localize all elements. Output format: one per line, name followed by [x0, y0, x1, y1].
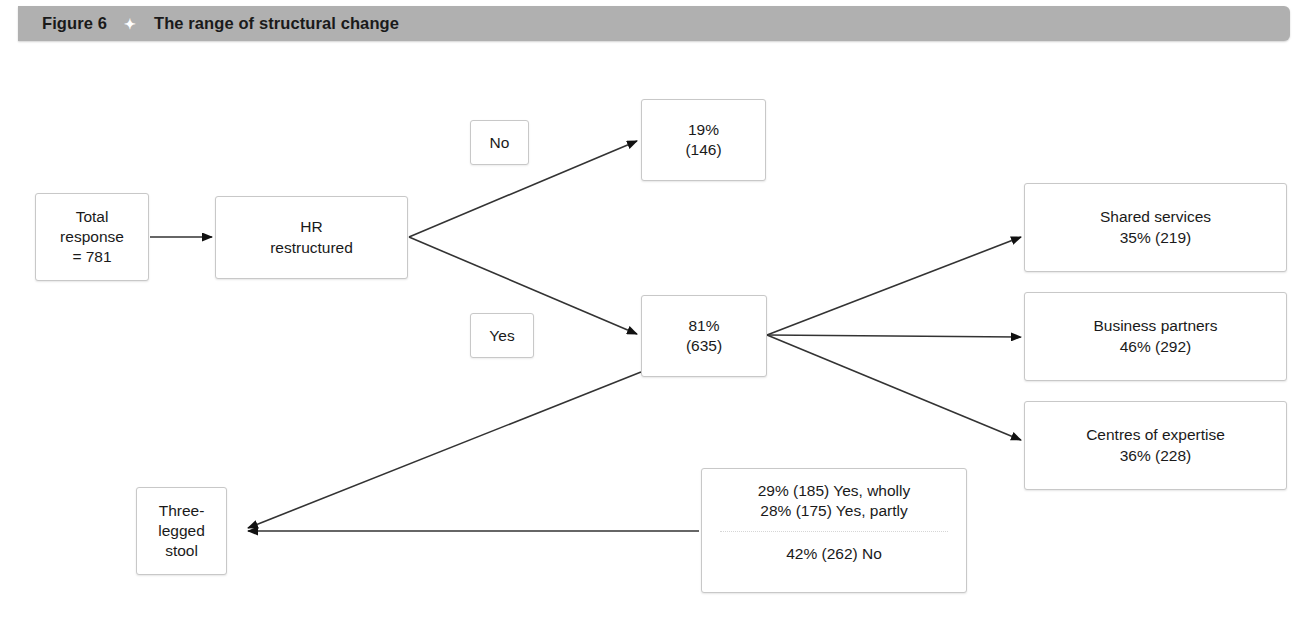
- node-yes-outcome[interactable]: 81% (635): [641, 295, 767, 377]
- hr-restructured-line-1: HR: [300, 217, 322, 237]
- centres-of-expertise-title: Centres of expertise: [1086, 425, 1225, 445]
- three-legged-stool-line-2: legged: [158, 521, 205, 541]
- total-response-line-1: Total: [76, 207, 109, 227]
- shared-services-value: 35% (219): [1120, 228, 1192, 248]
- hr-restructured-line-2: restructured: [270, 238, 353, 258]
- node-centres-of-expertise[interactable]: Centres of expertise 36% (228): [1024, 401, 1287, 490]
- total-response-line-2: response: [60, 227, 124, 247]
- node-total-response[interactable]: Total response = 781: [35, 193, 149, 281]
- node-no-outcome[interactable]: 19% (146): [641, 99, 766, 181]
- stool-breakdown-yes-group: 29% (185) Yes, wholly 28% (175) Yes, par…: [702, 481, 966, 521]
- node-shared-services[interactable]: Shared services 35% (219): [1024, 183, 1287, 272]
- three-legged-stool-line-1: Three-: [159, 501, 205, 521]
- no-outcome-percent: 19%: [688, 120, 719, 140]
- stool-breakdown-yes-wholly: 29% (185) Yes, wholly: [702, 481, 966, 501]
- edge-label-no[interactable]: No: [470, 120, 529, 165]
- no-outcome-count: (146): [685, 140, 721, 160]
- node-business-partners[interactable]: Business partners 46% (292): [1024, 292, 1287, 381]
- edge-label-no-text: No: [490, 134, 510, 152]
- edge-label-yes[interactable]: Yes: [470, 313, 534, 358]
- node-hr-restructured[interactable]: HR restructured: [215, 196, 408, 279]
- figure-page: Figure 6 ✦ The range of structural chang…: [0, 0, 1314, 622]
- edge-label-yes-text: Yes: [489, 327, 514, 345]
- stool-breakdown-divider: [720, 531, 947, 532]
- stool-breakdown-yes-partly: 28% (175) Yes, partly: [702, 501, 966, 521]
- three-legged-stool-line-3: stool: [165, 541, 198, 561]
- edge-yes-to-business-partners: [767, 335, 1021, 337]
- yes-outcome-count: (635): [686, 336, 722, 356]
- shared-services-title: Shared services: [1100, 207, 1211, 227]
- business-partners-title: Business partners: [1093, 316, 1217, 336]
- stool-breakdown-no: 42% (262) No: [702, 544, 966, 564]
- edge-yes-to-shared-services: [767, 237, 1021, 335]
- node-stool-breakdown[interactable]: 29% (185) Yes, wholly 28% (175) Yes, par…: [701, 468, 967, 593]
- stool-breakdown-no-group: 42% (262) No: [702, 544, 966, 564]
- business-partners-value: 46% (292): [1120, 337, 1192, 357]
- edge-yes-to-centres-of-expertise: [767, 335, 1021, 440]
- total-response-line-3: = 781: [72, 247, 111, 267]
- yes-outcome-percent: 81%: [688, 316, 719, 336]
- node-three-legged-stool[interactable]: Three- legged stool: [136, 487, 227, 575]
- centres-of-expertise-value: 36% (228): [1120, 446, 1192, 466]
- edge-yes-to-three-legged-stool: [248, 372, 641, 528]
